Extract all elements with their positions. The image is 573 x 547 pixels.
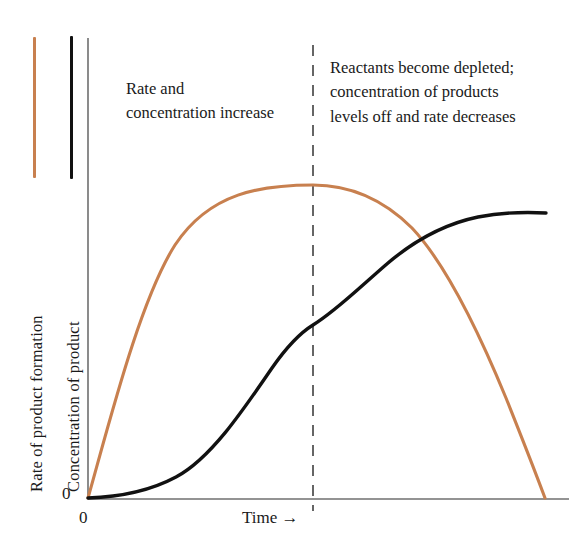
y-axis-origin-label: 0 (62, 484, 71, 504)
curve-rate-of-product-formation (88, 185, 545, 498)
curve-concentration-of-product (88, 212, 546, 498)
annotation-rate-and-concentration-increase: Rate and concentration increase (126, 77, 274, 126)
x-axis-origin-label: 0 (79, 508, 88, 528)
annotation-reactants-become-depleted: Reactants become depleted; concentration… (330, 56, 516, 129)
x-axis-title-time: Time → (242, 508, 299, 528)
reaction-progress-figure: Rate of product formation Concentration … (0, 0, 573, 547)
